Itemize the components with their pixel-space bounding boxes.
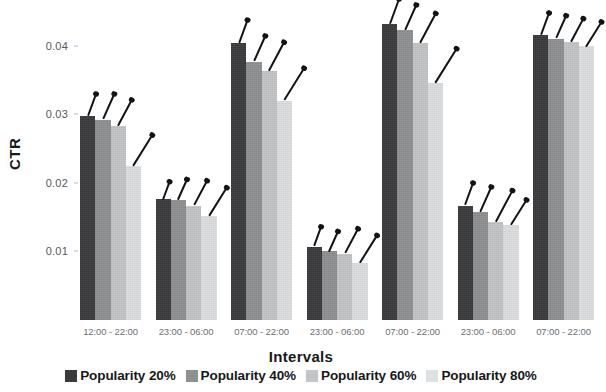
error-bar-cap bbox=[523, 196, 530, 203]
x-tick-label: 23:00 - 06:00 bbox=[458, 326, 519, 337]
bar bbox=[503, 225, 518, 320]
error-bar-stem bbox=[283, 68, 305, 101]
error-bar bbox=[328, 231, 339, 252]
bar bbox=[277, 101, 292, 320]
error-bar-stem bbox=[87, 94, 97, 116]
error-bar-stem bbox=[585, 21, 602, 47]
error-bar bbox=[117, 100, 132, 126]
legend-label: Popularity 20% bbox=[80, 368, 175, 383]
error-bar bbox=[570, 19, 584, 43]
error-bar-cap bbox=[395, 0, 402, 3]
bar bbox=[80, 116, 95, 320]
legend-label: Popularity 80% bbox=[441, 368, 536, 383]
error-bar-cap bbox=[335, 228, 342, 235]
legend-label: Popularity 60% bbox=[321, 368, 416, 383]
bar bbox=[201, 216, 216, 320]
error-bar-stem bbox=[253, 36, 266, 62]
legend-item[interactable]: Popularity 60% bbox=[306, 368, 416, 383]
x-tick-label: 12:00 - 22:00 bbox=[80, 326, 141, 337]
error-bar bbox=[434, 49, 457, 84]
bar-group: 23:00 - 06:00 bbox=[307, 8, 368, 320]
bar bbox=[337, 254, 352, 321]
error-bar-stem bbox=[555, 16, 567, 39]
bar bbox=[322, 251, 337, 320]
error-bar bbox=[479, 187, 492, 213]
error-bar bbox=[404, 5, 417, 31]
bar bbox=[548, 39, 563, 320]
error-bar bbox=[87, 94, 97, 116]
chart-legend: Popularity 20%Popularity 40%Popularity 6… bbox=[0, 368, 602, 383]
error-bar-cap bbox=[354, 225, 361, 232]
error-bar-cap bbox=[373, 232, 380, 239]
bar-group: 07:00 - 22:00 bbox=[382, 8, 443, 320]
error-bar-stem bbox=[389, 0, 400, 24]
error-bar-cap bbox=[280, 39, 287, 46]
error-bar bbox=[585, 21, 602, 47]
error-bar bbox=[389, 0, 400, 24]
bar bbox=[564, 42, 579, 320]
error-bar-cap bbox=[470, 180, 477, 187]
bar bbox=[428, 83, 443, 320]
error-bar-cap bbox=[262, 33, 269, 40]
bar bbox=[126, 166, 141, 320]
bar bbox=[156, 199, 171, 320]
error-bar bbox=[344, 229, 359, 254]
error-bar-stem bbox=[177, 180, 188, 201]
bar-group: 12:00 - 22:00 bbox=[80, 8, 141, 320]
error-bar-stem bbox=[132, 135, 153, 167]
y-axis-title: CTR bbox=[6, 138, 23, 170]
error-bar-stem bbox=[238, 20, 248, 44]
y-tick-mark bbox=[74, 114, 78, 115]
error-bar-cap bbox=[111, 91, 118, 98]
bar bbox=[397, 30, 412, 320]
bar bbox=[352, 263, 367, 320]
error-bar bbox=[268, 43, 285, 72]
bar bbox=[579, 46, 594, 320]
y-tick-mark bbox=[74, 251, 78, 252]
error-bar-cap bbox=[598, 18, 605, 25]
error-bar-stem bbox=[359, 236, 378, 264]
error-bar-cap bbox=[166, 178, 173, 185]
error-bar-cap bbox=[413, 1, 420, 8]
error-bar-cap bbox=[562, 13, 569, 20]
bar bbox=[186, 206, 201, 321]
error-bar-cap bbox=[508, 188, 515, 195]
legend-item[interactable]: Popularity 40% bbox=[186, 368, 296, 383]
bar bbox=[246, 62, 261, 321]
error-bar-cap bbox=[432, 10, 439, 17]
error-bar-stem bbox=[117, 100, 132, 126]
error-bar-stem bbox=[404, 5, 417, 31]
legend-swatch-icon bbox=[65, 370, 77, 382]
error-bar bbox=[208, 187, 227, 216]
legend-label: Popularity 40% bbox=[201, 368, 296, 383]
bar bbox=[171, 200, 186, 320]
error-bar-cap bbox=[488, 184, 495, 191]
error-bar-cap bbox=[128, 97, 135, 104]
bar-group: 07:00 - 22:00 bbox=[231, 8, 292, 320]
bar bbox=[231, 43, 246, 320]
error-bar bbox=[238, 20, 248, 44]
bar bbox=[458, 206, 473, 321]
error-bar bbox=[162, 181, 170, 199]
legend-item[interactable]: Popularity 80% bbox=[426, 368, 536, 383]
bar bbox=[533, 35, 548, 320]
error-bar-stem bbox=[540, 13, 550, 35]
x-tick-label: 23:00 - 06:00 bbox=[156, 326, 217, 337]
error-bar-stem bbox=[464, 183, 474, 205]
legend-item[interactable]: Popularity 20% bbox=[65, 368, 175, 383]
error-bar-cap bbox=[203, 177, 210, 184]
error-bar-cap bbox=[545, 10, 552, 17]
y-tick-label: 0.04 bbox=[46, 40, 68, 52]
x-tick-label: 07:00 - 22:00 bbox=[382, 326, 443, 337]
error-bar-stem bbox=[313, 227, 322, 247]
error-bar-stem bbox=[419, 13, 436, 43]
error-bar bbox=[313, 227, 322, 247]
legend-swatch-icon bbox=[426, 370, 438, 382]
bar bbox=[262, 71, 277, 320]
error-bar-stem bbox=[268, 43, 285, 72]
error-bar-cap bbox=[184, 176, 191, 183]
error-bar-stem bbox=[570, 19, 584, 43]
error-bar bbox=[102, 94, 115, 120]
bar bbox=[382, 24, 397, 320]
